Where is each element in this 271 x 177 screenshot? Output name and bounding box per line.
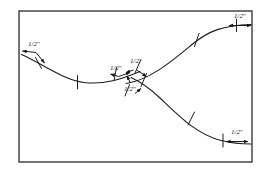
dimension-callout-left-text: 1/2" [28, 41, 40, 48]
tick-left-curve-1 [36, 58, 42, 69]
tick-lower-curve-1 [188, 112, 195, 125]
dimension-callout-left-arrow-1 [23, 51, 37, 53]
dimension-callout-center-right-value: 1/2 [130, 58, 139, 65]
dimension-callout-bottom-right-text: 1/2" [231, 129, 243, 136]
dimension-callout-center-right-arrow-2 [137, 70, 147, 77]
dimension-callout-center-right-unit: " [139, 57, 142, 65]
dimension-callout-bottom-right-unit: " [240, 128, 243, 136]
dimension-callout-center-below-arrow-1 [127, 76, 131, 83]
dimension-callout-center-below-text: 1/2" [124, 86, 136, 93]
dimension-callout-center-left-value: 1/2 [110, 65, 119, 72]
tick-mark-group [36, 19, 237, 147]
dimension-callout-top-right-unit: " [243, 12, 246, 20]
dimension-callout-top-right-text: 1/2" [234, 13, 246, 20]
dimension-callout-left-unit: " [37, 40, 40, 48]
dimension-callout-center-left-text: 1/2" [110, 65, 122, 72]
technical-drawing-figure: 1/2"1/2"1/2"1/2"1/2"1/2" [0, 0, 271, 177]
dimension-callout-top-right-value: 1/2 [234, 13, 243, 20]
curve-group [22, 25, 252, 145]
dimension-callout-bottom-right-value: 1/2 [231, 129, 240, 136]
dimension-callout-center-below-value: 1/2 [124, 86, 133, 93]
leader-arrow-group [23, 26, 252, 142]
left-descending-curve [22, 55, 141, 84]
dimension-callout-left-value: 1/2 [28, 41, 37, 48]
dimension-callout-center-below-unit: " [133, 85, 136, 93]
upper-right-ascending-curve [126, 25, 251, 84]
dimension-callout-center-left-unit: " [119, 64, 122, 72]
dimension-callout-center-right-text: 1/2" [130, 58, 142, 65]
